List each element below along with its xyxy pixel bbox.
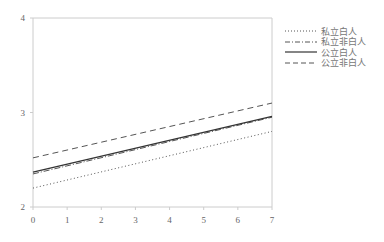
x-tick-label: 4	[167, 215, 172, 225]
solid-line-swatch-icon	[283, 48, 319, 56]
y-tick-label: 3	[21, 108, 26, 118]
x-tick-label: 5	[201, 215, 206, 225]
x-axis-ticks: 01234567	[31, 207, 275, 225]
series-lines	[33, 103, 272, 188]
x-tick-label: 2	[99, 215, 104, 225]
y-tick-label: 4	[21, 13, 26, 23]
plot-frame	[33, 18, 272, 207]
y-tick-label: 2	[21, 202, 26, 212]
y-axis-ticks: 234	[21, 13, 34, 212]
x-tick-label: 1	[65, 215, 70, 225]
legend-item-public-nonwhite: 公立非白人	[283, 58, 366, 69]
dashed-line-swatch-icon	[283, 59, 319, 67]
legend-label: 公立非白人	[321, 56, 366, 69]
x-tick-label: 3	[133, 215, 138, 225]
dash-dot-line-swatch-icon	[283, 38, 319, 46]
legend: 私立白人 私立非白人 公立白人 公立非白人	[283, 26, 366, 68]
x-tick-label: 0	[31, 215, 36, 225]
series-line-dashed	[33, 103, 272, 158]
series-line-solid	[33, 116, 272, 172]
series-line-dotted	[33, 131, 272, 188]
x-tick-label: 6	[236, 215, 241, 225]
series-line-dash-dot	[33, 117, 272, 174]
dotted-line-swatch-icon	[283, 27, 319, 35]
x-tick-label: 7	[270, 215, 275, 225]
